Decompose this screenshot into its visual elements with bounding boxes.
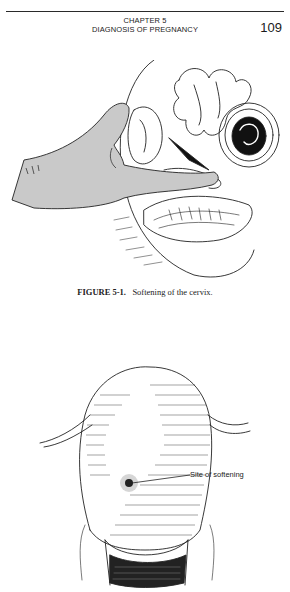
- rectum: [144, 196, 252, 242]
- page-number: 109: [260, 20, 282, 35]
- right-fallopian-tube: [208, 415, 250, 433]
- chapter-number: CHAPTER 5: [0, 16, 290, 25]
- chapter-title: DIAGNOSIS OF PREGNANCY: [0, 25, 290, 34]
- fetus: [232, 117, 266, 155]
- figure-label: FIGURE 5-1.: [77, 287, 126, 297]
- vaginal-canal: [169, 138, 209, 170]
- left-fallopian-tube: [40, 415, 92, 447]
- figure-5-1-caption: FIGURE 5-1. Softening of the cervix.: [0, 287, 290, 297]
- header-rule: [6, 11, 284, 12]
- figure-5-1-illustration: [4, 60, 286, 278]
- annotation-leader-line: [132, 475, 190, 483]
- site-of-softening-label: Site of softening: [190, 470, 244, 479]
- vaginal-wall: [110, 555, 186, 588]
- bladder: [128, 107, 162, 164]
- site-of-softening-marker: [120, 474, 138, 492]
- figure-caption-text: Softening of the cervix.: [132, 287, 212, 297]
- uterus-body: [80, 367, 212, 550]
